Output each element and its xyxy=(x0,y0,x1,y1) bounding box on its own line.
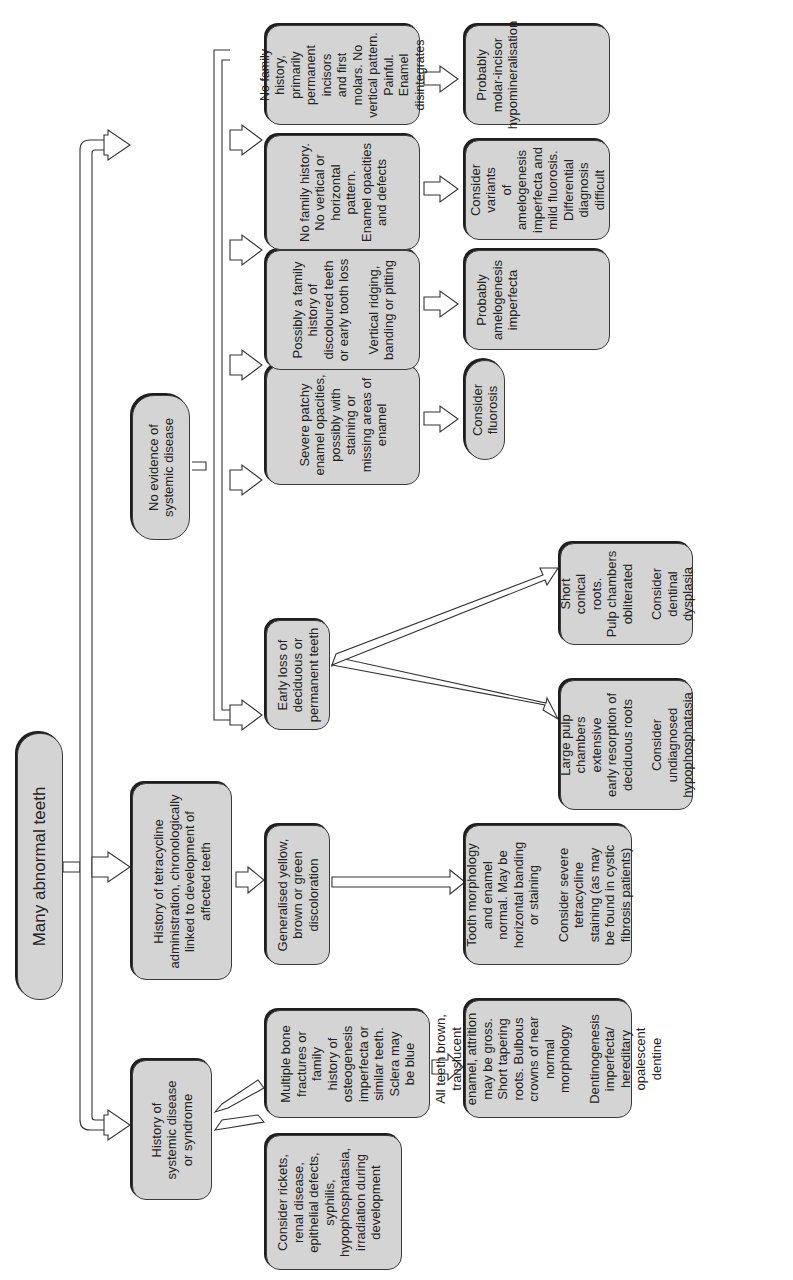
node-no-family-molars: No family history, primarily permanent i… xyxy=(266,25,420,125)
node-generalised-discoloration: Generalised yellow, brown or green disco… xyxy=(266,825,330,965)
node-label: Short conical roots. Pulp chambers oblit… xyxy=(558,551,636,638)
node-severe-patchy-opacities: Severe patchy enamel opacities, possibly… xyxy=(266,365,420,485)
spacer xyxy=(402,1135,414,1270)
node-label: Consider variants of amelogenesis imperf… xyxy=(468,147,608,233)
node-consider-variants: Consider variants of amelogenesis imperf… xyxy=(465,140,610,240)
node-label: Probably molar-incisor hypomineralisatio… xyxy=(474,21,521,129)
node-no-family-opacities: No family history. No vertical or horizo… xyxy=(266,135,420,250)
node-molar-incisor-hypomineralisation: Probably molar-incisor hypomineralisatio… xyxy=(465,25,610,125)
node-label: Consider fluorosis xyxy=(470,367,501,453)
node-label-2: Dentinogenesis imperfecta/ hereditary op… xyxy=(587,1007,665,1111)
node-label-2: Vertical ridging, banding or pitting xyxy=(366,260,397,360)
spacer-2 xyxy=(266,1135,274,1270)
node-label: No evidence of systemic disease xyxy=(146,418,177,517)
root-node: Many abnormal teeth xyxy=(17,733,63,1000)
node-early-tooth-loss: Early loss of deciduous or permanent tee… xyxy=(266,620,330,730)
root-label: Many abnormal teeth xyxy=(32,787,48,947)
node-label: No family history. No vertical or horizo… xyxy=(297,142,390,243)
node-dentinal-dysplasia: Short conical roots. Pulp chambers oblit… xyxy=(560,543,693,645)
node-label-2: Consider severe tetracycline staining (a… xyxy=(556,845,634,945)
node-hypophosphatasia: Large pulp chambers extensive early reso… xyxy=(560,680,693,810)
node-label: Generalised yellow, brown or green disco… xyxy=(275,839,322,952)
node-consider-rickets: Consider rickets, renal disease, epithel… xyxy=(266,1135,402,1270)
node-label: Tooth morphology and enamel normal. May … xyxy=(464,842,542,948)
node-multiple-bone-fractures: Multiple bone fractures or family histor… xyxy=(266,1010,430,1118)
node-consider-fluorosis: Consider fluorosis xyxy=(465,360,505,460)
node-tetracycline-history: History of tetracycline administration, … xyxy=(132,783,232,980)
node-label: Large pulp chambers extensive early reso… xyxy=(558,693,636,797)
node-label-2: Consider undiagnosed hypophosphatasia xyxy=(649,692,696,798)
node-dentinogenesis-imperfecta: All teeth brown, translucent enamel, att… xyxy=(465,1000,632,1118)
node-label: All teeth brown, translucent enamel, att… xyxy=(433,1007,573,1111)
node-label: No family history, primarily permanent i… xyxy=(258,32,429,118)
node-label: Probably amelogenesis imperfecta xyxy=(474,260,521,340)
node-label: History of systemic disease or syndrome xyxy=(149,1081,196,1180)
node-label: History of tetracycline administration, … xyxy=(151,794,213,968)
node-label: Consider rickets, renal disease, epithel… xyxy=(275,1148,384,1257)
node-label: Severe patchy enamel opacities, possibly… xyxy=(297,374,390,475)
node-family-history-discoloured: Possibly a family history of discoloured… xyxy=(266,250,420,370)
flowchart-canvas: Many abnormal teeth History of systemic … xyxy=(0,0,793,1280)
node-label: Multiple bone fractures or family histor… xyxy=(278,1017,418,1111)
node-amelogenesis-imperfecta: Probably amelogenesis imperfecta xyxy=(465,250,610,350)
node-tetracycline-staining: Tooth morphology and enamel normal. May … xyxy=(465,825,632,965)
node-label: Early loss of deciduous or permanent tee… xyxy=(275,628,322,723)
node-no-systemic-disease: No evidence of systemic disease xyxy=(132,395,190,540)
node-label-2: Consider dentinal dysplasia xyxy=(649,567,696,621)
node-systemic-disease: History of systemic disease or syndrome xyxy=(132,1060,212,1200)
node-label: Possibly a family history of discoloured… xyxy=(290,259,352,362)
